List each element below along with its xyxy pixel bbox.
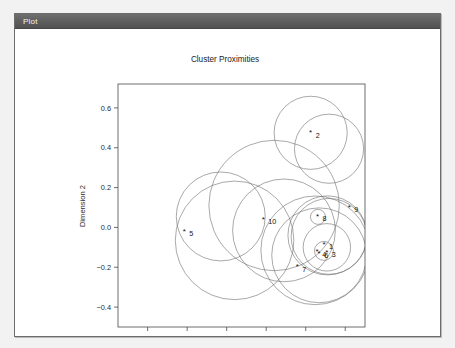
point-marker-asterisk: *: [348, 203, 351, 212]
desktop-background: Plot Cluster Proximities *1*2*3*4*5*6*7*…: [0, 0, 455, 348]
proximity-circles-layer: [175, 96, 369, 304]
point-label: 6: [324, 251, 328, 260]
point-marker-asterisk: *: [318, 249, 321, 258]
y-tick-label: 0.0: [101, 223, 111, 232]
window-titlebar[interactable]: Plot: [15, 14, 440, 29]
y-axis-title: Dimension 2: [78, 185, 87, 227]
y-tick-label: 0.4: [101, 143, 111, 152]
data-point: *10: [262, 215, 277, 227]
point-marker-asterisk: *: [309, 128, 312, 137]
point-marker-asterisk: *: [316, 212, 319, 221]
plot-frame: [118, 84, 365, 327]
y-tick-label: −0.4: [96, 303, 111, 312]
point-label: 9: [354, 205, 358, 214]
y-tick-label: 0.6: [101, 104, 111, 113]
data-point: *9: [348, 203, 359, 215]
proximity-circle: [294, 114, 363, 183]
plot-window: Plot Cluster Proximities *1*2*3*4*5*6*7*…: [14, 13, 441, 337]
y-tick-label: 0.2: [101, 183, 111, 192]
point-label: 7: [302, 265, 306, 274]
data-point: *8: [316, 212, 327, 224]
point-marker-asterisk: *: [296, 262, 299, 271]
point-label: 5: [189, 229, 193, 238]
window-client-area: Cluster Proximities *1*2*3*4*5*6*7*8*9*1…: [16, 30, 439, 335]
cluster-proximities-chart: Cluster Proximities *1*2*3*4*5*6*7*8*9*1…: [16, 30, 439, 335]
chart-title: Cluster Proximities: [191, 55, 259, 64]
y-tick-label: −0.2: [96, 263, 111, 272]
proximity-circle: [233, 179, 336, 282]
point-marker-asterisk: *: [262, 215, 265, 224]
point-label: 10: [268, 217, 276, 226]
data-point: *2: [309, 128, 320, 140]
point-label: 2: [316, 131, 320, 140]
data-point: *5: [183, 227, 194, 239]
y-axis-ticks: 0.60.40.20.0−0.2−0.4: [96, 104, 118, 312]
point-marker-asterisk: *: [183, 227, 186, 236]
proximity-circle: [175, 181, 294, 300]
chart-canvas: Cluster Proximities *1*2*3*4*5*6*7*8*9*1…: [16, 30, 439, 335]
point-label: 8: [323, 214, 327, 223]
point-label: 3: [332, 250, 336, 259]
x-axis-ticks: −0.8−0.6−0.4−0.20.00.2: [140, 327, 350, 335]
window-title-label: Plot: [23, 15, 38, 28]
data-point: *7: [296, 262, 307, 274]
proximity-circle: [176, 172, 265, 261]
